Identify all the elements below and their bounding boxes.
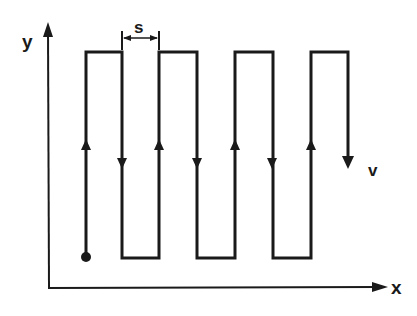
- up-arrow-icon: [154, 139, 164, 150]
- spacing-arrow-right-icon: [150, 35, 158, 41]
- spacing-marker: s: [122, 18, 159, 50]
- up-arrow-icon: [81, 139, 91, 150]
- end-down-arrow-icon: [342, 156, 354, 169]
- down-arrow-icon: [192, 158, 202, 169]
- x-axis-label: x: [391, 277, 402, 298]
- up-arrow-icon: [306, 139, 316, 150]
- spacing-label: s: [134, 18, 143, 37]
- up-arrow-icon: [230, 139, 240, 150]
- scan-path-diagram: y x s v: [0, 0, 417, 316]
- down-arrow-icon: [117, 158, 127, 169]
- scan-path: [86, 52, 348, 258]
- x-axis-arrow-icon: [372, 282, 388, 292]
- y-axis-arrow-icon: [43, 22, 53, 37]
- spacing-arrow-left-icon: [123, 35, 131, 41]
- y-axis: [48, 30, 49, 289]
- down-arrow-icon: [267, 158, 277, 169]
- y-axis-label: y: [22, 31, 33, 52]
- velocity-label: v: [368, 161, 378, 180]
- start-point-dot: [81, 252, 91, 262]
- x-axis: [48, 287, 378, 288]
